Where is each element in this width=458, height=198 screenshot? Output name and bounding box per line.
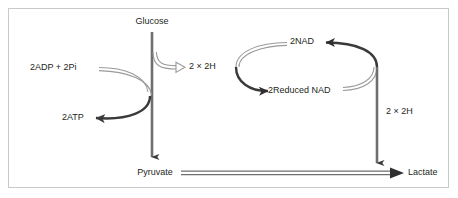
pathway-arrows <box>0 0 458 198</box>
label-hydrogen-right: 2 × 2H <box>386 107 413 116</box>
pyruvate-to-lactate-arrow <box>181 168 404 179</box>
label-adp-pi: 2ADP + 2Pi <box>30 63 77 72</box>
label-pyruvate: Pyruvate <box>137 168 173 177</box>
reduced-nad-to-nad-curve <box>326 43 377 91</box>
label-reduced-nad: 2Reduced NAD <box>268 86 331 95</box>
label-glucose: Glucose <box>135 17 168 26</box>
label-hydrogen-top: 2 × 2H <box>189 62 216 71</box>
glycolysis-diagram: Glucose Pyruvate Lactate 2ADP + 2Pi 2ATP… <box>0 0 458 198</box>
nad-to-reduced-nad-curve <box>236 43 287 92</box>
label-lactate: Lactate <box>408 168 438 177</box>
label-atp: 2ATP <box>62 113 84 122</box>
label-nad: 2NAD <box>290 37 314 46</box>
adp-to-atp-curve <box>96 68 152 119</box>
glucose-hydrogen-branch <box>153 52 185 72</box>
